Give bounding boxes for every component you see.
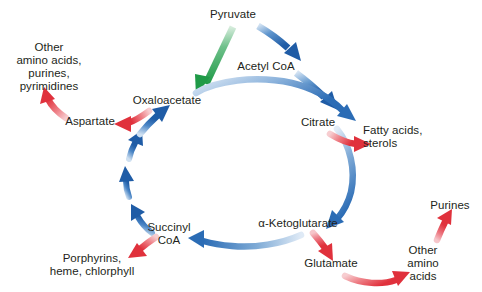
node-label-pyruvate: Pyruvate bbox=[210, 8, 256, 21]
arrow-pyruvate-to-acetyl-coa bbox=[258, 26, 301, 61]
node-label-oxaloacetate: Oxaloacetate bbox=[133, 94, 201, 107]
arrow-alpha-ketoglutarate-to-succinyl-coa bbox=[188, 230, 301, 248]
node-label-fatty-acids-sterols: Fatty acids, sterols bbox=[363, 124, 422, 150]
node-label-other-amino-acids: Other amino acids bbox=[394, 244, 453, 283]
diagram-canvas: Pyruvate Acetyl CoA Citrate α-Ketoglutar… bbox=[0, 0, 482, 292]
node-label-purines: Purines bbox=[430, 199, 469, 212]
arrow-oxaloacetate-to-citrate bbox=[196, 79, 356, 121]
node-label-other-amino-acids-purines-pyrimidines: Other amino acids, purines, pyrimidines bbox=[16, 41, 81, 93]
node-label-citrate: Citrate bbox=[301, 116, 335, 129]
node-label-aspartate: Aspartate bbox=[65, 115, 115, 128]
node-label-glutamate: Glutamate bbox=[304, 257, 358, 270]
node-label-acetyl-coa: Acetyl CoA bbox=[237, 60, 294, 73]
node-label-succinyl-coa: Succinyl CoA bbox=[147, 221, 190, 247]
node-label-porphyrins-heme-chlorophyll: Porphyrins, heme, chlorphyll bbox=[50, 252, 135, 278]
arrow-other-amino-acids-to-purines bbox=[437, 209, 452, 240]
node-label-alpha-ketoglutarate: α-Ketoglutarate bbox=[258, 217, 338, 230]
